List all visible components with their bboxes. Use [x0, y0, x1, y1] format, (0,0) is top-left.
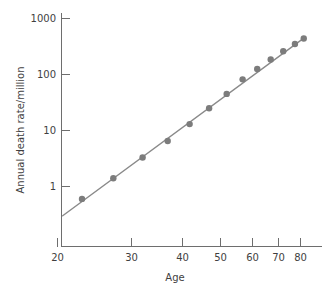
- data-point: [79, 196, 85, 202]
- chart-figure: 1000 100 10 1 20 30 40 50 60 70 80 Ag: [0, 0, 331, 293]
- data-point: [239, 76, 245, 82]
- y-tick-label-1: 1: [50, 181, 56, 192]
- x-tick-label-50: 50: [214, 252, 227, 263]
- y-tick-label-10: 10: [43, 125, 56, 136]
- data-point: [301, 35, 307, 41]
- data-point: [268, 56, 274, 62]
- data-point: [164, 138, 170, 144]
- data-point-group: [79, 35, 307, 202]
- data-point: [206, 105, 212, 111]
- x-tick-label-40: 40: [176, 252, 189, 263]
- x-tick-label-70: 70: [272, 252, 285, 263]
- data-point: [292, 41, 298, 47]
- x-axis-title: Age: [165, 272, 184, 283]
- data-point: [139, 154, 145, 160]
- data-point: [280, 48, 286, 54]
- y-tick-label-100: 100: [37, 69, 56, 80]
- data-point: [223, 91, 229, 97]
- y-axis-title: Annual death rate/million: [15, 67, 26, 194]
- y-tick-label-1000: 1000: [31, 13, 56, 24]
- data-point: [254, 66, 260, 72]
- chart-plot-area: 1000 100 10 1 20 30 40 50 60 70 80 Ag: [0, 0, 331, 293]
- x-tick-label-20: 20: [51, 252, 64, 263]
- x-tick-label-30: 30: [125, 252, 138, 263]
- data-point: [110, 175, 116, 181]
- x-axis-ticks: 20 30 40 50 60 70 80: [51, 238, 307, 263]
- x-tick-label-60: 60: [246, 252, 259, 263]
- x-tick-label-80: 80: [294, 252, 307, 263]
- fitted-trend-line: [63, 37, 305, 215]
- y-axis-ticks: 1000 100 10 1: [31, 13, 70, 192]
- data-point: [186, 121, 192, 127]
